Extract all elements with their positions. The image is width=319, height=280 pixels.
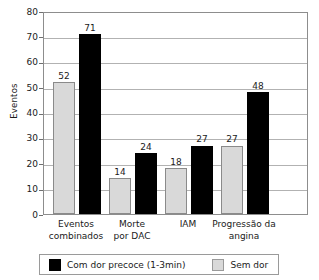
plot-area: 5271142418272748 — [43, 12, 308, 215]
y-axis-tick-label: 50 — [14, 84, 38, 93]
bar-value-label: 48 — [241, 82, 275, 91]
bar-value-label: 71 — [73, 24, 107, 33]
bar-value-label: 27 — [185, 135, 219, 144]
legend: Com dor precoce (1-3min) Sem dor — [39, 254, 279, 275]
bar — [247, 92, 269, 214]
y-axis-tick-label: 10 — [14, 185, 38, 194]
category-label-line: Progressão da — [199, 219, 289, 231]
bar — [165, 168, 187, 214]
x-axis-category-label: Progressão daangina — [199, 219, 289, 242]
bar-value-label: 27 — [215, 135, 249, 144]
bar — [191, 146, 213, 215]
bar-value-label: 14 — [103, 168, 137, 177]
y-axis-tick-mark — [39, 215, 43, 216]
bar-value-label: 52 — [47, 72, 81, 81]
y-axis-tick-label: 30 — [14, 134, 38, 143]
bar — [79, 34, 101, 214]
category-label-line: por DAC — [87, 231, 177, 243]
legend-item-sem-dor: Sem dor — [212, 259, 268, 271]
bar — [135, 153, 157, 214]
legend-item-com-dor-precoce: Com dor precoce (1-3min) — [49, 259, 185, 271]
bars-layer: 5271142418272748 — [44, 13, 307, 214]
y-axis-tick-label: 80 — [14, 8, 38, 17]
y-axis-tick-label: 20 — [14, 160, 38, 169]
bar-value-label: 24 — [129, 143, 163, 152]
category-label-line: angina — [199, 231, 289, 243]
y-axis-tick-label: 40 — [14, 109, 38, 118]
legend-label: Com dor precoce (1-3min) — [67, 260, 185, 270]
bar — [53, 82, 75, 214]
bar-chart: Eventos 01020304050607080 52711424182727… — [0, 0, 319, 280]
y-axis-tick-label: 70 — [14, 33, 38, 42]
legend-label: Sem dor — [230, 260, 268, 270]
bar — [109, 178, 131, 214]
legend-swatch-icon-black — [49, 259, 61, 271]
bar-value-label: 18 — [159, 158, 193, 167]
bar — [221, 146, 243, 215]
y-axis-title: Eventos — [9, 71, 19, 131]
legend-swatch-icon-gray — [212, 259, 224, 271]
y-axis-tick-label: 60 — [14, 58, 38, 67]
